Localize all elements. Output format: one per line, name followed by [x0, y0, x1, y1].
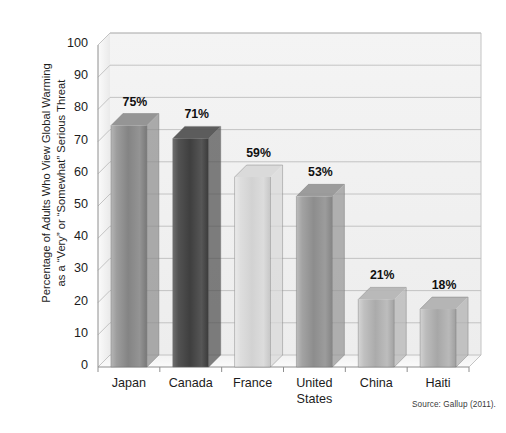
bar-value-label: 18%	[414, 278, 474, 292]
bar-value-label: 71%	[167, 107, 227, 121]
x-category-label: Haiti	[407, 376, 469, 392]
y-tick-label: 70	[54, 133, 88, 147]
y-tick-label: 90	[54, 68, 88, 82]
y-tick-label: 20	[54, 294, 88, 308]
y-tick-label: 50	[54, 197, 88, 211]
bar-1	[173, 126, 221, 367]
y-tick-label: 80	[54, 100, 88, 114]
source-note: Source: Gallup (2011).	[412, 400, 496, 409]
bar-chart: Percentage of Adults Who View Global War…	[0, 0, 506, 433]
bar-value-label: 53%	[290, 165, 350, 179]
bar-3	[296, 184, 344, 367]
bar-value-label: 75%	[105, 95, 165, 109]
y-tick-label: 10	[54, 326, 88, 340]
bar-4	[358, 287, 406, 367]
y-tick-label: 60	[54, 165, 88, 179]
x-category-label: France	[222, 376, 284, 392]
x-category-label: Japan	[98, 376, 160, 392]
y-tick-label: 30	[54, 261, 88, 275]
bar-2	[235, 165, 283, 367]
y-tick-label: 40	[54, 229, 88, 243]
x-category-label: China	[345, 376, 407, 392]
bar-value-label: 59%	[229, 146, 289, 160]
x-category-label: Canada	[160, 376, 222, 392]
bar-5	[420, 297, 468, 367]
y-tick-label: 0	[54, 358, 88, 372]
bar-0	[111, 114, 159, 368]
bar-value-label: 21%	[352, 268, 412, 282]
x-category-label: United States	[284, 376, 346, 407]
y-tick-label: 100	[54, 36, 88, 50]
